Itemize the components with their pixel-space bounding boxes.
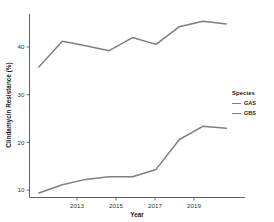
- x-tick-label: 2017: [148, 202, 162, 209]
- legend-title: Species: [232, 90, 274, 97]
- chart-container: 40 30 20 10 Clindamycin Resistance (%) 2…: [0, 0, 274, 222]
- x-tick-label: 2015: [109, 202, 123, 209]
- y-tick-label: 30: [18, 91, 25, 98]
- x-axis-title: Year: [130, 211, 144, 218]
- legend-label-gbs: GBS: [244, 110, 256, 116]
- y-tick-label: 20: [18, 139, 25, 146]
- series-group: [39, 21, 226, 193]
- x-axis-tick-labels: 2013 2015 2017 2019: [70, 202, 201, 209]
- legend: Species GAS GBS: [232, 90, 274, 120]
- series-line-gbs: [39, 21, 226, 67]
- y-tick-label: 40: [18, 43, 25, 50]
- legend-item-gbs[interactable]: GBS: [232, 110, 274, 117]
- y-axis-tick-labels: 40 30 20 10: [18, 43, 25, 193]
- y-axis-title: Clindamycin Resistance (%): [5, 62, 13, 147]
- x-axis: 2013 2015 2017 2019 Year: [30, 198, 246, 219]
- legend-label-gas: GAS: [244, 100, 256, 106]
- y-tick-label: 10: [18, 186, 25, 193]
- legend-item-gas[interactable]: GAS: [232, 100, 274, 107]
- x-tick-label: 2013: [70, 202, 84, 209]
- legend-swatch-gas: [232, 103, 241, 104]
- x-tick-label: 2019: [187, 202, 201, 209]
- y-axis: 40 30 20 10 Clindamycin Resistance (%): [5, 14, 30, 197]
- legend-swatch-gbs: [232, 113, 241, 114]
- series-line-gas: [39, 126, 226, 193]
